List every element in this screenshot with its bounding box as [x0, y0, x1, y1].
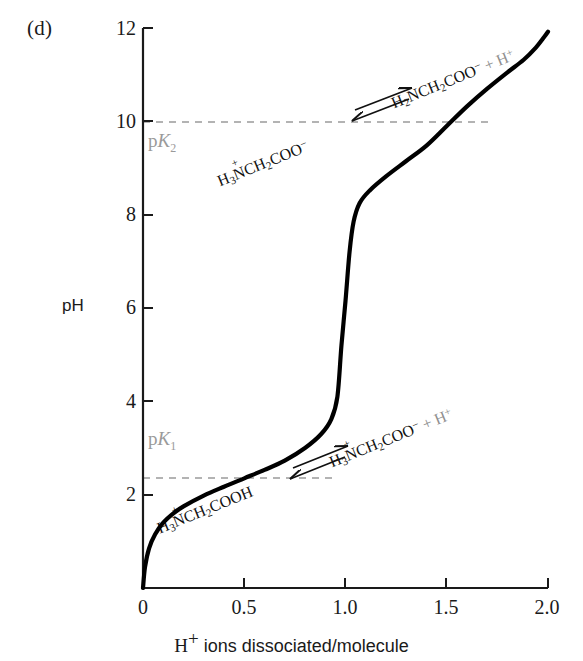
titration-curve [143, 32, 548, 588]
equilibrium-arrow-2 [352, 88, 412, 121]
plot-svg [0, 0, 583, 661]
titration-curve-figure: (d) pH 12 10 8 6 4 2 0 0.5 1.0 1.5 2.0 p… [0, 0, 583, 661]
